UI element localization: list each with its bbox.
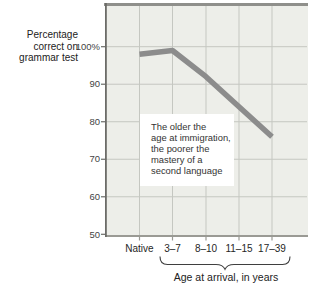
y-axis-title: Percentage correct on grammar test — [0, 29, 78, 64]
y-tick-labels: 100%9080706050 — [76, 41, 101, 240]
x-tick-label: 17–39 — [258, 243, 286, 254]
x-tick-label: 11–15 — [225, 243, 253, 254]
y-tick-label: 80 — [89, 116, 100, 127]
x-axis-title: Age at arrival, in years — [150, 271, 302, 283]
figure: 100%9080706050 Native3–78–1011–1517–39 P… — [0, 0, 310, 287]
x-tick-label: Native — [125, 243, 154, 254]
x-tick-label: 3–7 — [164, 243, 181, 254]
x-tick-label: 8–10 — [195, 243, 218, 254]
y-tick-label: 90 — [89, 78, 100, 89]
y-tick-label: 70 — [89, 153, 100, 164]
y-axis-line — [105, 3, 107, 237]
annotation-text: The older the age at immigration, the po… — [151, 121, 234, 176]
x-tick-labels: Native3–78–1011–1517–39 — [125, 243, 286, 254]
y-tick-label: 100% — [76, 41, 101, 52]
annotation-box: The older the age at immigration, the po… — [140, 114, 234, 186]
y-tick-label: 50 — [89, 229, 100, 240]
x-axis-brace — [160, 257, 290, 270]
top-border — [104, 3, 308, 6]
y-tick-label: 60 — [89, 191, 100, 202]
